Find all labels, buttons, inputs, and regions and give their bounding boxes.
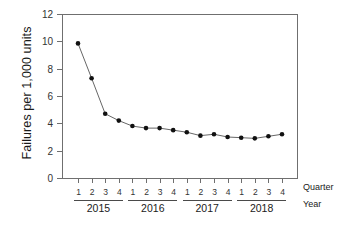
x-axis-year-label: 2017 — [196, 202, 220, 214]
data-point — [280, 132, 285, 137]
y-tick-label: 12 — [42, 9, 54, 20]
x-tick-label-quarter: 1 — [239, 187, 244, 197]
x-tick-label-quarter: 3 — [103, 187, 108, 197]
x-tick-label-quarter: 1 — [185, 187, 190, 197]
y-axis-ticks: 024681012 — [42, 9, 62, 184]
data-point — [253, 136, 258, 141]
data-point — [103, 111, 108, 116]
x-tick-label-quarter: 4 — [171, 187, 176, 197]
data-point — [130, 124, 135, 129]
data-point — [157, 126, 162, 131]
data-series — [76, 41, 285, 141]
x-tick-label-quarter: 2 — [253, 187, 258, 197]
data-point — [171, 128, 176, 133]
x-tick-label-quarter: 4 — [280, 187, 285, 197]
x-axis-ticks: 1234123412341234 — [76, 178, 285, 197]
x-tick-label-quarter: 2 — [144, 187, 149, 197]
data-point — [266, 134, 271, 139]
data-point — [212, 132, 217, 137]
x-tick-label-quarter: 1 — [76, 187, 81, 197]
data-point — [225, 135, 230, 140]
data-point — [198, 133, 203, 138]
year-axis-label: Year — [303, 199, 321, 209]
x-tick-label-quarter: 3 — [158, 187, 163, 197]
x-tick-label-quarter: 3 — [212, 187, 217, 197]
x-tick-label-quarter: 1 — [131, 187, 136, 197]
y-tick-label: 10 — [42, 36, 54, 47]
chart-container: Failures per 1,000 units 024681012 12341… — [0, 0, 343, 226]
y-tick-label: 6 — [47, 91, 53, 102]
data-point — [239, 135, 244, 140]
x-tick-label-quarter: 2 — [90, 187, 95, 197]
x-axis-year-label: 2016 — [141, 202, 165, 214]
data-point — [76, 41, 81, 46]
x-tick-label-quarter: 4 — [226, 187, 231, 197]
data-point — [185, 130, 190, 135]
y-tick-label: 2 — [47, 146, 53, 157]
y-tick-label: 0 — [47, 173, 53, 184]
y-tick-label: 4 — [47, 118, 53, 129]
x-tick-label-quarter: 3 — [267, 187, 272, 197]
y-tick-label: 8 — [47, 64, 53, 75]
series-line — [78, 43, 282, 138]
plot-frame — [63, 15, 298, 179]
x-axis-year-label: 2018 — [250, 202, 274, 214]
quarter-axis-label: Quarter — [303, 182, 334, 192]
data-point — [89, 76, 94, 81]
line-chart-plot: 024681012 1234123412341234 2015201620172… — [0, 0, 343, 226]
x-tick-label-quarter: 2 — [199, 187, 204, 197]
x-tick-label-quarter: 4 — [117, 187, 122, 197]
data-point — [117, 118, 122, 123]
x-axis-year-label: 2015 — [87, 202, 111, 214]
data-point — [144, 126, 149, 131]
x-axis-group-labels: 2015201620172018 — [74, 201, 286, 215]
